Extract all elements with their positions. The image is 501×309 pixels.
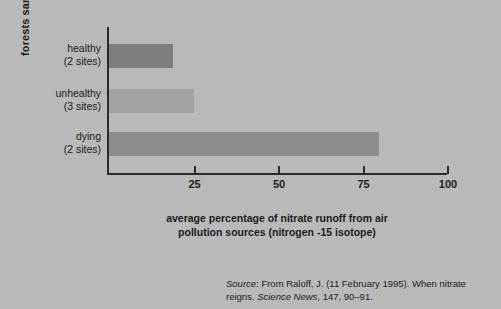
source-journal: Science News bbox=[257, 291, 317, 302]
x-axis-title-line-2: pollution sources (nitrogen -15 isotope) bbox=[107, 226, 447, 240]
x-tick-label-25: 25 bbox=[175, 178, 215, 190]
plot-area: forests sampled healthy (2 sites) unheal… bbox=[0, 0, 501, 200]
source-label: Source bbox=[226, 278, 256, 289]
category-label-line-1: healthy bbox=[9, 42, 101, 55]
x-axis-line bbox=[107, 173, 447, 175]
category-label-line-2: (2 sites) bbox=[9, 143, 101, 156]
x-tick-label-50: 50 bbox=[259, 178, 299, 190]
x-axis-title-line-1: average percentage of nitrate runoff fro… bbox=[107, 212, 447, 226]
category-label-line-1: dying bbox=[9, 130, 101, 143]
category-label-healthy: healthy (2 sites) bbox=[0, 42, 101, 72]
bar-unhealthy bbox=[109, 89, 194, 113]
category-label-unhealthy: unhealthy (3 sites) bbox=[0, 87, 101, 117]
x-tick-mark-100 bbox=[447, 166, 449, 174]
x-tick-label-100: 100 bbox=[428, 178, 468, 190]
category-label-line-1: unhealthy bbox=[9, 87, 101, 100]
bar-chart-figure: forests sampled healthy (2 sites) unheal… bbox=[0, 0, 501, 309]
bar-healthy bbox=[109, 44, 173, 68]
x-tick-mark-25 bbox=[194, 166, 196, 174]
source-text-2: , 147, 90–91. bbox=[317, 291, 372, 302]
x-tick-mark-75 bbox=[363, 166, 365, 174]
x-tick-label-75: 75 bbox=[344, 178, 384, 190]
category-label-line-2: (3 sites) bbox=[9, 100, 101, 113]
x-axis-title: average percentage of nitrate runoff fro… bbox=[107, 212, 447, 239]
category-label-dying: dying (2 sites) bbox=[0, 130, 101, 160]
source-note: Source: From Raloff, J. (11 February 199… bbox=[226, 277, 488, 303]
bar-dying bbox=[109, 132, 379, 156]
x-tick-mark-50 bbox=[278, 166, 280, 174]
category-label-line-2: (2 sites) bbox=[9, 55, 101, 68]
